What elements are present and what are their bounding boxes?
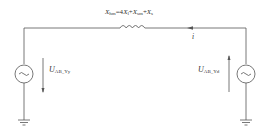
- circuit-diagram: [0, 0, 268, 136]
- reactance-formula-label: Xhm=4Xl+Xsm+Xs: [105, 9, 153, 16]
- right-sine-icon: [241, 73, 251, 76]
- right-voltage-label: UAB_Yd: [198, 66, 219, 74]
- current-label: i: [192, 33, 194, 41]
- left-ground-icon: [18, 120, 30, 125]
- left-sine-icon: [19, 73, 29, 76]
- current-arrowhead-icon: [187, 26, 193, 29]
- left-voltage-label: UAB_Yy: [49, 66, 70, 74]
- right-voltage-arrowhead-icon: [228, 55, 231, 60]
- inductor-icon: [120, 26, 145, 29]
- right-ground-icon: [240, 120, 252, 125]
- left-voltage-arrowhead-icon: [42, 88, 45, 93]
